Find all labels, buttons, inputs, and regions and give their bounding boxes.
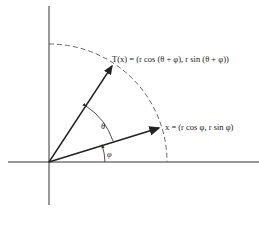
rotated-vector-label: T(x) = (r cos (θ + φ), r sin (θ + φ))	[112, 54, 229, 64]
phi-label: φ	[107, 149, 112, 159]
phi-arc	[102, 145, 105, 162]
rotation-diagram: T(x) = (r cos (θ + φ), r sin (θ + φ)) x …	[0, 0, 259, 226]
theta-label: θ	[101, 121, 105, 131]
vector-label: x = (r cos φ, r sin φ)	[165, 122, 234, 132]
theta-arc	[86, 106, 113, 141]
vector-x-arrow	[49, 128, 159, 162]
